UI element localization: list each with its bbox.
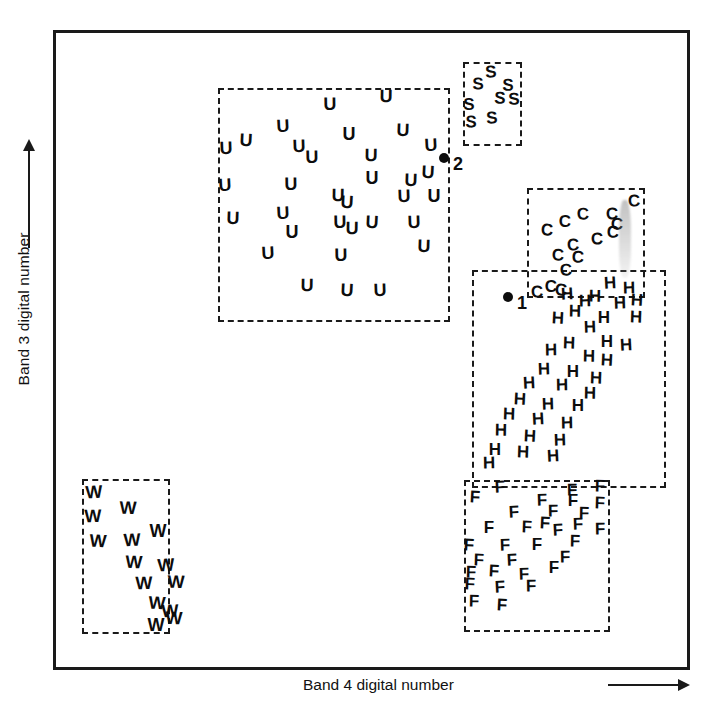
y-axis-label: Band 3 digital number (15, 189, 33, 429)
data-point-u: U (305, 148, 318, 166)
data-point-f: F (537, 491, 548, 508)
data-point-f: F (549, 559, 559, 576)
data-point-f: F (496, 596, 507, 614)
data-point-s: S (472, 75, 484, 92)
data-point-u: U (340, 281, 354, 300)
data-point-u: U (292, 137, 306, 155)
data-point-f: F (560, 548, 571, 565)
data-point-w: W (119, 499, 136, 517)
y-axis-label-text: Band 3 digital number (15, 233, 33, 386)
data-point-s: S (485, 63, 497, 81)
data-point-h: H (517, 443, 530, 460)
data-point-w: W (84, 507, 101, 525)
data-point-u: U (379, 87, 392, 105)
data-point-h: H (531, 410, 544, 428)
data-point-u: U (365, 213, 379, 232)
data-point-w: W (148, 616, 165, 634)
data-point-f: F (532, 536, 542, 553)
data-point-h: H (563, 334, 576, 351)
data-point-f: F (552, 521, 563, 539)
scan-smudge-artifact (619, 200, 631, 278)
data-point-f: F (526, 577, 537, 594)
data-point-u: U (261, 244, 275, 263)
data-point-f: F (463, 536, 474, 554)
data-point-u: U (284, 175, 297, 193)
data-point-f: F (595, 494, 606, 511)
data-point-f: F (494, 578, 505, 596)
data-point-f: F (506, 551, 517, 569)
data-point-u: U (407, 213, 421, 231)
data-point-h: H (584, 384, 597, 401)
figure-canvas: Band 3 digital number Band 4 digital num… (0, 0, 714, 702)
data-point-f: F (469, 488, 480, 506)
data-point-w: W (150, 522, 167, 540)
data-point-f: F (469, 592, 480, 609)
data-point-f: F (508, 503, 519, 521)
data-point-h: H (572, 397, 584, 414)
data-point-s: S (494, 89, 506, 107)
data-point-h: H (538, 360, 551, 377)
data-point-h: H (551, 309, 564, 327)
data-point-u: U (286, 223, 299, 241)
data-point-h: H (630, 291, 643, 309)
data-point-h: H (556, 376, 569, 393)
data-point-h: H (567, 363, 579, 380)
data-point-u: U (300, 276, 313, 294)
data-point-h: H (583, 347, 596, 364)
data-point-u: U (276, 117, 290, 136)
reference-point-label: 2 (453, 154, 463, 175)
data-point-w: W (167, 573, 184, 591)
data-point-w: W (85, 483, 103, 502)
data-point-h: H (560, 285, 573, 303)
data-point-c: C (591, 230, 604, 247)
class-box-urban (218, 88, 450, 322)
data-point-h: H (630, 308, 643, 325)
reference-point-dot-icon (503, 292, 513, 302)
data-point-u: U (373, 281, 387, 299)
data-point-h: H (598, 309, 610, 326)
data-point-h: H (619, 336, 632, 354)
data-point-u: U (428, 187, 441, 205)
data-point-u: U (218, 176, 232, 195)
data-point-c: C (577, 205, 590, 222)
data-point-u: U (226, 209, 240, 227)
data-point-c: C (571, 248, 584, 266)
y-axis-up-arrow-icon (28, 150, 30, 248)
data-point-h: H (614, 294, 627, 311)
data-point-w: W (123, 531, 141, 550)
data-point-h: H (483, 454, 496, 471)
reference-point-dot-icon (439, 153, 449, 163)
data-point-w: W (89, 532, 107, 551)
data-point-h: H (561, 414, 574, 431)
data-point-u: U (276, 204, 290, 223)
data-point-f: F (573, 515, 584, 532)
data-point-u: U (334, 246, 347, 264)
data-point-s: S (465, 113, 477, 130)
data-point-f: F (595, 520, 606, 537)
data-point-u: U (219, 139, 233, 157)
data-point-c: C (560, 261, 573, 278)
data-point-c: C (606, 223, 619, 241)
data-point-h: H (495, 421, 508, 438)
data-point-s: S (486, 109, 498, 127)
data-point-u: U (397, 187, 411, 205)
data-point-f: F (568, 492, 578, 509)
data-point-f: F (570, 532, 581, 549)
data-point-w: W (125, 553, 143, 572)
data-point-u: U (421, 163, 435, 182)
data-point-w: W (135, 574, 152, 592)
reference-point-label: 1 (517, 293, 527, 314)
data-point-f: F (522, 518, 533, 535)
data-point-f: F (595, 477, 606, 494)
data-point-c: C (530, 283, 543, 301)
data-point-h: H (603, 274, 616, 292)
data-point-u: U (323, 95, 336, 113)
data-point-s: S (508, 90, 520, 107)
data-point-c: C (559, 213, 571, 230)
data-point-h: H (546, 447, 559, 465)
data-point-u: U (396, 121, 410, 139)
data-point-u: U (424, 136, 438, 155)
data-point-u: U (239, 131, 253, 150)
data-point-s: S (463, 96, 474, 113)
data-point-u: U (340, 193, 354, 212)
